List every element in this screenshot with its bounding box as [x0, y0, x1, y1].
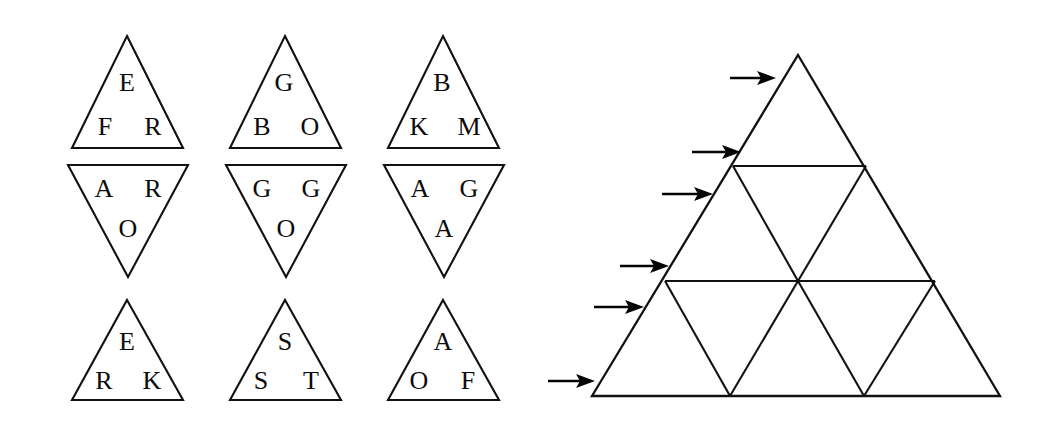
triangle-6-top-left-letter: A — [411, 174, 430, 203]
triangle-6-top-right-letter: G — [460, 174, 479, 203]
arrow-2 — [692, 145, 741, 159]
letter-triangle-row-2: A R O G G O A G A — [68, 165, 504, 277]
triangle-6-bottom-letter: A — [435, 214, 454, 243]
big-triangle-edge-band3-a — [665, 281, 730, 396]
big-triangle-edge-band3-d — [864, 281, 935, 396]
triangle-3-top-letter: B — [433, 68, 450, 97]
arrow-3 — [662, 187, 713, 201]
arrow-6 — [548, 374, 595, 388]
big-triangle-edge-band2-right — [798, 166, 866, 281]
arrow-5 — [594, 300, 644, 314]
letter-triangle-row-1: E F R G B O B K M — [72, 36, 499, 148]
triangle-3-bottom-right-letter: M — [457, 112, 480, 141]
big-triangle-edge-band3-c — [798, 281, 864, 396]
triangle-1-top-letter: E — [119, 68, 135, 97]
triangle-5-top-right-letter: G — [302, 174, 321, 203]
big-triangle-edge-band3-b — [730, 281, 798, 396]
letter-triangle-row-3: E R K S S T A O F — [72, 300, 499, 400]
triangle-5-top-left-letter: G — [253, 174, 272, 203]
triangle-2-top-letter: G — [275, 68, 294, 97]
triangle-8-bottom-left-letter: S — [254, 366, 268, 395]
letter-triangle-4: A R O — [68, 165, 188, 277]
triangle-4-top-right-letter: R — [144, 174, 162, 203]
triangle-2-bottom-left-letter: B — [253, 112, 270, 141]
triangle-2-bottom-right-letter: O — [301, 112, 320, 141]
big-triangle-edge-band2-left — [733, 166, 798, 281]
triangle-8-top-letter: S — [278, 327, 292, 356]
arrow-1 — [730, 71, 776, 85]
triangle-8-bottom-right-letter: T — [303, 366, 319, 395]
triangle-5-bottom-letter: O — [277, 214, 296, 243]
letter-triangle-7: E R K — [72, 300, 183, 400]
letter-triangle-3: B K M — [388, 36, 499, 148]
triangle-3-bottom-left-letter: K — [410, 112, 429, 141]
triangle-9-top-letter: A — [434, 327, 453, 356]
triangle-1-bottom-left-letter: F — [98, 112, 112, 141]
triangle-9-bottom-right-letter: F — [461, 366, 475, 395]
triangle-7-bottom-right-letter: K — [143, 366, 162, 395]
letter-triangle-6: A G A — [384, 165, 504, 277]
figure-root: E F R G B O B K M A R O — [0, 0, 1050, 431]
big-subdivided-triangle — [548, 55, 1000, 396]
arrow-4 — [620, 259, 669, 273]
triangle-7-bottom-left-letter: R — [95, 366, 113, 395]
triangle-4-bottom-letter: O — [119, 214, 138, 243]
letter-triangle-2: G B O — [230, 36, 341, 148]
big-triangle-outline — [592, 55, 1000, 396]
figure-canvas: E F R G B O B K M A R O — [0, 0, 1050, 431]
triangle-4-top-left-letter: A — [95, 174, 114, 203]
triangle-1-bottom-right-letter: R — [144, 112, 162, 141]
triangle-9-bottom-left-letter: O — [410, 366, 429, 395]
letter-triangle-9: A O F — [388, 300, 499, 400]
letter-triangle-5: G G O — [226, 165, 346, 277]
letter-triangle-8: S S T — [230, 300, 341, 400]
letter-triangle-1: E F R — [72, 36, 183, 148]
triangle-7-top-letter: E — [119, 327, 135, 356]
